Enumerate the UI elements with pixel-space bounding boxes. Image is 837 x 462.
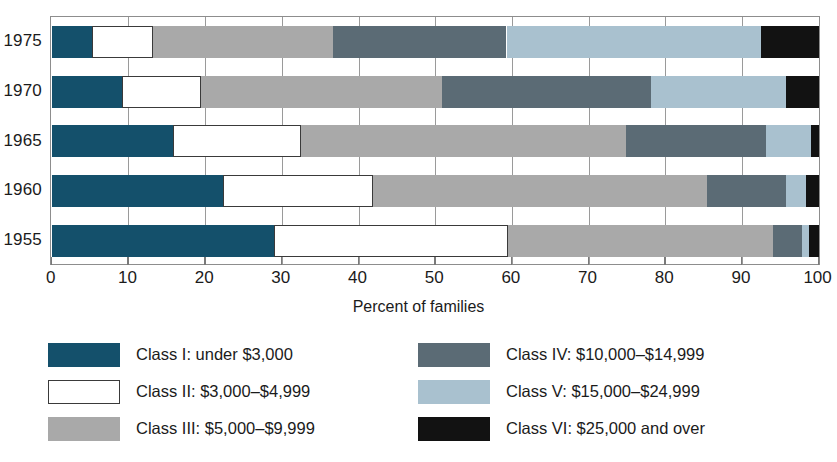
bar-segment-class-4[interactable] [707, 175, 785, 207]
stacked-bar-1960[interactable] [51, 175, 821, 207]
bar-row [51, 17, 819, 67]
bar-segment-class-2[interactable] [274, 225, 508, 257]
y-tick-label-1965: 1965 [0, 131, 42, 151]
x-tick-label-30: 30 [271, 268, 290, 288]
x-tick-label-100: 100 [803, 268, 831, 288]
legend-item[interactable]: Class III: $5,000–$9,999 [48, 410, 428, 447]
legend-swatch-c1 [48, 343, 120, 367]
bar-segment-class-5[interactable] [766, 125, 811, 157]
legend-column-left: Class I: under $3,000Class II: $3,000–$4… [48, 336, 428, 447]
legend-label: Class I: under $3,000 [136, 345, 293, 364]
bar-segment-class-1[interactable] [52, 225, 274, 257]
x-tick-mark-50 [434, 257, 435, 265]
x-tick-mark-10 [127, 257, 128, 265]
x-tick-mark-30 [281, 257, 282, 265]
bar-row [51, 117, 819, 167]
x-tick-label-70: 70 [578, 268, 597, 288]
bar-segment-class-5[interactable] [802, 225, 809, 257]
bar-segment-class-3[interactable] [373, 175, 707, 207]
bar-segment-class-2[interactable] [173, 125, 301, 157]
x-tick-mark-0 [51, 257, 52, 265]
legend-label: Class III: $5,000–$9,999 [136, 419, 315, 438]
y-tick-label-1960: 1960 [0, 180, 42, 200]
x-tick-mark-70 [588, 257, 589, 265]
plot-area-wrapper: 19751970196519601955 [0, 0, 837, 290]
bar-segment-class-1[interactable] [52, 26, 92, 58]
stacked-bar-1975[interactable] [51, 26, 821, 58]
y-tick-label-1975: 1975 [0, 31, 42, 51]
stacked-bar-chart: 19751970196519601955 0102030405060708090… [0, 0, 837, 462]
x-tick-label-20: 20 [195, 268, 214, 288]
legend-swatch-c4 [418, 343, 490, 367]
bar-segment-class-1[interactable] [52, 76, 122, 108]
y-tick-label-1955: 1955 [0, 230, 42, 250]
x-tick-label-10: 10 [118, 268, 137, 288]
legend-label: Class VI: $25,000 and over [506, 419, 705, 438]
x-tick-mark-60 [511, 257, 512, 265]
y-tick-label-1970: 1970 [0, 81, 42, 101]
legend-item[interactable]: Class V: $15,000–$24,999 [418, 373, 818, 410]
x-tick-label-50: 50 [425, 268, 444, 288]
bar-segment-class-6[interactable] [811, 125, 819, 157]
legend-swatch-c5 [418, 380, 490, 404]
bar-segment-class-2[interactable] [92, 26, 153, 58]
x-tick-label-60: 60 [501, 268, 520, 288]
legend-label: Class V: $15,000–$24,999 [506, 382, 700, 401]
bar-row [51, 67, 819, 117]
legend-column-right: Class IV: $10,000–$14,999Class V: $15,00… [418, 336, 818, 447]
x-tick-label-0: 0 [46, 268, 55, 288]
legend-item[interactable]: Class VI: $25,000 and over [418, 410, 818, 447]
legend-label: Class IV: $10,000–$14,999 [506, 345, 704, 364]
legend-swatch-c2 [48, 380, 120, 404]
x-tick-label-80: 80 [655, 268, 674, 288]
bar-segment-class-2[interactable] [223, 175, 373, 207]
x-tick-mark-40 [358, 257, 359, 265]
stacked-bar-1970[interactable] [51, 76, 821, 108]
bar-segment-class-3[interactable] [153, 26, 333, 58]
stacked-bar-1965[interactable] [51, 125, 821, 157]
bar-segment-class-2[interactable] [122, 76, 202, 108]
x-tick-mark-80 [664, 257, 665, 265]
bar-segment-class-4[interactable] [626, 125, 766, 157]
bar-segment-class-6[interactable] [761, 26, 819, 58]
bar-row [51, 166, 819, 216]
bar-segment-class-5[interactable] [651, 76, 786, 108]
plot-area [50, 16, 820, 265]
bar-segment-class-1[interactable] [52, 175, 223, 207]
bar-segment-class-3[interactable] [201, 76, 442, 108]
legend-item[interactable]: Class II: $3,000–$4,999 [48, 373, 428, 410]
legend-label: Class II: $3,000–$4,999 [136, 382, 310, 401]
chart-legend: Class I: under $3,000Class II: $3,000–$4… [0, 336, 837, 456]
x-tick-mark-100 [818, 257, 819, 265]
bar-segment-class-4[interactable] [773, 225, 802, 257]
legend-item[interactable]: Class IV: $10,000–$14,999 [418, 336, 818, 373]
y-axis-tick-labels: 19751970196519601955 [0, 0, 50, 265]
bar-segment-class-1[interactable] [52, 125, 173, 157]
legend-swatch-c3 [48, 417, 120, 441]
bar-segment-class-3[interactable] [508, 225, 773, 257]
bar-segment-class-4[interactable] [333, 26, 506, 58]
legend-swatch-c6 [418, 417, 490, 441]
bar-segment-class-6[interactable] [786, 76, 818, 108]
x-tick-label-90: 90 [731, 268, 750, 288]
stacked-bar-1955[interactable] [51, 225, 821, 257]
x-tick-label-40: 40 [348, 268, 367, 288]
x-tick-mark-20 [204, 257, 205, 265]
legend-item[interactable]: Class I: under $3,000 [48, 336, 428, 373]
x-axis: 0102030405060708090100 [50, 265, 820, 295]
x-tick-mark-90 [741, 257, 742, 265]
bar-segment-class-6[interactable] [809, 225, 819, 257]
bar-segment-class-5[interactable] [507, 26, 762, 58]
x-axis-title: Percent of families [0, 298, 837, 316]
bar-segment-class-4[interactable] [442, 76, 651, 108]
bar-segment-class-5[interactable] [786, 175, 807, 207]
bar-segment-class-3[interactable] [301, 125, 626, 157]
bar-segment-class-6[interactable] [806, 175, 818, 207]
